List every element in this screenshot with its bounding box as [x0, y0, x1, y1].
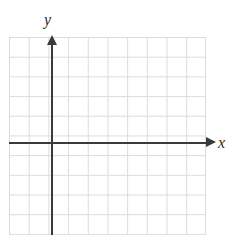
- y-axis-label: y: [44, 12, 51, 28]
- grid-right-edge: [205, 37, 206, 235]
- grid-background: [9, 37, 206, 235]
- y-axis-line: [51, 43, 53, 235]
- coordinate-grid-figure: x y: [0, 0, 231, 235]
- arrow-up-icon: [47, 35, 57, 45]
- x-axis-line: [9, 142, 206, 144]
- arrow-right-icon: [206, 137, 216, 147]
- x-axis-label: x: [218, 135, 225, 151]
